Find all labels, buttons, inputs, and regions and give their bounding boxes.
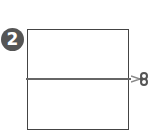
cut-line (26, 78, 131, 80)
scissors-icon (131, 72, 149, 86)
step-number-badge: 2 (1, 28, 24, 51)
